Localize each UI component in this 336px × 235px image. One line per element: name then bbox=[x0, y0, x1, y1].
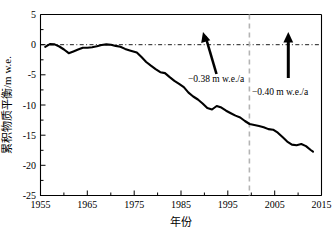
cumulative-mass-balance-chart: 5 0 -5 -10 -15 -20 -25 1955 1965 1975 19… bbox=[0, 0, 336, 235]
annotation-arrow-head bbox=[201, 32, 210, 43]
y-tick-label: 5 bbox=[31, 9, 36, 20]
x-tick-label: 1955 bbox=[31, 199, 51, 210]
annotation-arrow-head bbox=[283, 32, 293, 43]
annotation-label-post-2000: −0.40 m w.e./a bbox=[252, 87, 309, 97]
plot-frame bbox=[41, 15, 322, 196]
x-axis-tick-labels: 1955 1965 1975 1985 1995 2005 2015 bbox=[31, 199, 332, 210]
x-tick-label: 1965 bbox=[77, 199, 97, 210]
annotation-trend-post-2000: −0.40 m w.e./a bbox=[252, 32, 309, 97]
y-axis-title: 累积物质平衡/m w.e. bbox=[0, 56, 13, 154]
annotation-arrow-shaft bbox=[206, 37, 217, 75]
x-tick-label: 1975 bbox=[124, 199, 144, 210]
y-tick-label: 0 bbox=[31, 39, 36, 50]
y-tick-label: -20 bbox=[23, 160, 36, 171]
x-tick-label: 2005 bbox=[265, 199, 285, 210]
chart-canvas: 5 0 -5 -10 -15 -20 -25 1955 1965 1975 19… bbox=[0, 0, 336, 235]
mass-balance-series bbox=[45, 44, 313, 152]
y-tick-label: -5 bbox=[28, 69, 36, 80]
axis-spines bbox=[41, 15, 322, 196]
annotation-trend-pre-2000: −0.38 m w.e./a bbox=[188, 32, 245, 84]
y-tick-label: -15 bbox=[23, 130, 36, 141]
x-axis-title: 年份 bbox=[170, 215, 192, 228]
x-axis-major-ticks bbox=[41, 191, 322, 196]
y-tick-label: -10 bbox=[23, 100, 36, 111]
x-tick-label: 1985 bbox=[171, 199, 191, 210]
x-tick-label: 1995 bbox=[218, 199, 238, 210]
y-axis-tick-labels: 5 0 -5 -10 -15 -20 -25 bbox=[23, 9, 36, 201]
annotation-label-pre-2000: −0.38 m w.e./a bbox=[188, 74, 245, 84]
x-tick-label: 2015 bbox=[312, 199, 332, 210]
y-axis-major-ticks bbox=[41, 15, 46, 196]
